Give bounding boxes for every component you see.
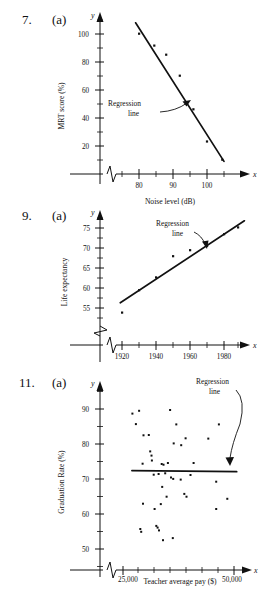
data-point [180,444,182,446]
chart-9-x-axis-break [107,337,116,353]
chart-11-data-points [131,409,228,541]
data-point [237,226,239,228]
data-point [223,233,225,235]
data-point [172,255,174,257]
chart-7-xtick-90: 90 [169,182,177,190]
data-point [158,529,160,531]
problem-11: 11. (a) y 90 80 [0,372,272,604]
chart-11-y-axis-label: Graduation Rate (%) [57,450,66,514]
chart-11-figure: y 90 80 70 60 50 Graduation Rate ( [50,372,265,602]
data-point [155,276,157,278]
data-point [218,423,220,425]
data-point [207,438,209,440]
chart-9-ytick-60: 60 [83,285,91,293]
chart-9-ytick-75: 75 [83,225,91,233]
data-point [206,140,208,142]
data-point [167,462,169,464]
chart-9-ytick-70: 70 [83,245,91,253]
chart-9-data-points [121,226,239,313]
chart-7-annotation-arrow [160,103,187,112]
data-point [164,472,166,474]
chart-9-svg: y 75 70 65 60 55 Life expectancy [50,202,265,377]
chart-11-ytick-80: 80 [82,441,90,449]
data-point [148,434,150,436]
chart-11-y-ticks: 90 80 70 60 50 [82,392,104,567]
data-point [179,75,181,77]
problem-7: 7. (a) y 100 [0,0,272,196]
chart-11-x-axis-break [107,562,116,578]
chart-7-x-axis: x [70,166,257,182]
data-point [158,473,160,475]
problem-9-number: 9. [22,208,32,224]
data-point [190,474,192,476]
chart-11-annotation-line2: line [209,387,221,396]
chart-11-annotation: Regression line [196,377,242,466]
chart-11-svg: y 90 80 70 60 50 Graduation Rate ( [50,372,265,602]
chart-9-x-ticks: 1920 1940 1960 1980 [115,341,238,361]
chart-9-figure: y 75 70 65 60 55 Life expectancy [50,202,265,377]
chart-9-annotation: Regression line [156,219,209,249]
data-point [172,537,174,539]
chart-9-xtick-1920: 1920 [115,353,130,361]
data-point [163,464,165,466]
data-point [162,539,164,541]
chart-7-ytick-100: 100 [78,31,89,39]
chart-9-x-axis: x [70,337,257,353]
data-point [142,463,144,465]
problem-7-number: 7. [22,12,32,28]
chart-9-y-ticks: 75 70 65 60 55 [83,218,104,318]
data-point [169,409,171,411]
data-point [193,462,195,464]
data-point [172,478,174,480]
chart-11-xtick-50000: 50,000 [222,576,242,584]
chart-11-x-axis-var: x [253,566,258,575]
chart-9-xtick-1960: 1960 [183,353,198,361]
chart-7-ytick-80: 80 [82,59,90,67]
chart-7-annotation: Regression line [108,99,191,118]
chart-7-regression-line [136,23,224,162]
chart-7-x-axis-break [107,166,116,182]
chart-9-xtick-1940: 1940 [149,353,164,361]
data-point [138,410,140,412]
data-point [161,486,163,488]
chart-11-ytick-50: 50 [82,546,90,554]
data-point [138,289,140,291]
data-point [121,312,123,314]
chart-11-regression-line [132,471,237,472]
problem-11-number: 11. [19,375,35,391]
chart-11-x-axis-label: Teacher average pay ($) [143,577,217,586]
data-point [157,527,159,529]
chart-7-y-axis: y [90,11,104,184]
data-point [192,108,194,110]
data-point [226,498,228,500]
data-point [135,423,137,425]
problem-9: 9. (a) y 75 [0,196,272,381]
data-point [173,442,175,444]
chart-11-xtick-25000: 25,000 [118,576,138,584]
chart-11-annotation-arrow [230,390,242,458]
data-point [175,423,177,425]
chart-7-ytick-40: 40 [82,115,90,123]
data-point [149,450,151,452]
data-point [215,508,217,510]
data-point [139,528,141,530]
data-point [151,460,153,462]
data-point [189,249,191,251]
chart-7-annotation-line2: line [128,109,140,118]
data-point [221,159,223,161]
chart-11-annotation-line1: Regression [196,377,229,386]
chart-7-xtick-100: 100 [202,182,213,190]
chart-7-y-axis-label: MRT score (%) [57,82,66,130]
data-point [165,54,167,56]
data-point [140,531,142,533]
chart-7-annotation-line1: Regression [108,99,141,108]
chart-7-figure: y 100 80 60 40 20 MR [50,6,265,196]
data-point [160,503,162,505]
chart-7-xtick-80: 80 [135,182,143,190]
data-point [153,45,155,47]
chart-9-y-axis-var: y [90,208,95,217]
data-point [142,503,144,505]
data-point [186,496,188,498]
chart-7-ytick-20: 20 [82,143,90,151]
data-point [143,434,145,436]
